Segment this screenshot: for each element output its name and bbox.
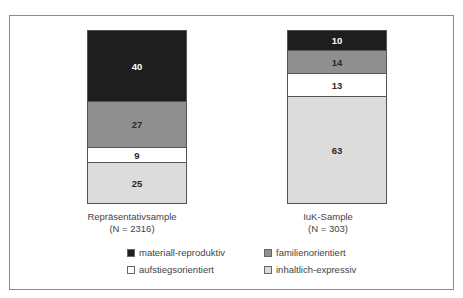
segment-aufstiegsorientiert: 13: [288, 73, 386, 96]
segment-inhaltlich-expressiv: 63: [288, 96, 386, 203]
category-sample-size: (N = 2316): [72, 223, 192, 235]
legend-label: aufstiegsorientiert: [139, 264, 214, 275]
category-label-repraesentativsample: Repräsentativsample (N = 2316): [72, 211, 192, 235]
segment-familienorientiert: 14: [288, 50, 386, 73]
segment-materiall-reproduktiv: 40: [88, 31, 186, 101]
legend-label: inhaltlich-expressiv: [276, 264, 356, 275]
segment-value: 63: [332, 145, 343, 156]
segment-value: 40: [132, 61, 143, 72]
segment-inhaltlich-expressiv: 25: [88, 162, 186, 203]
segment-familienorientiert: 27: [88, 101, 186, 147]
legend-item-familienorientiert: familienorientiert: [264, 247, 346, 258]
segment-aufstiegsorientiert: 9: [88, 147, 186, 162]
segment-value: 13: [332, 80, 343, 91]
category-sample-size: (N = 303): [268, 223, 388, 235]
category-name: Repräsentativsample: [72, 211, 192, 223]
legend-swatch-icon: [264, 249, 272, 257]
segment-value: 9: [134, 150, 139, 161]
segment-value: 10: [332, 35, 343, 46]
legend-item-materiall-reproduktiv: materiall-reproduktiv: [127, 247, 225, 258]
legend-swatch-icon: [127, 266, 135, 274]
segment-value: 27: [132, 119, 143, 130]
segment-materiall-reproduktiv: 10: [288, 31, 386, 50]
legend-item-inhaltlich-expressiv: inhaltlich-expressiv: [264, 264, 356, 275]
segment-value: 14: [332, 57, 343, 68]
chart-frame: [9, 15, 454, 290]
legend-label: familienorientiert: [276, 247, 346, 258]
segment-value: 25: [132, 178, 143, 189]
legend-item-aufstiegsorientiert: aufstiegsorientiert: [127, 264, 214, 275]
legend-swatch-icon: [127, 249, 135, 257]
legend-swatch-icon: [264, 266, 272, 274]
stacked-bar-repraesentativsample: 40 27 9 25: [87, 30, 187, 204]
category-label-iuk-sample: IuK-Sample (N = 303): [268, 211, 388, 235]
legend-label: materiall-reproduktiv: [139, 247, 225, 258]
stacked-bar-iuk-sample: 10 14 13 63: [287, 30, 387, 204]
category-name: IuK-Sample: [268, 211, 388, 223]
